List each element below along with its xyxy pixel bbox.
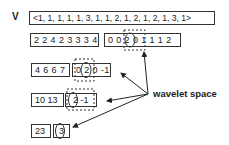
highlight-ellipse-4 xyxy=(56,124,65,139)
arrow-to-level3 xyxy=(107,94,148,101)
arrow-to-level1 xyxy=(144,52,148,94)
highlight-ellipse-3 xyxy=(69,93,78,108)
arrow-to-level2 xyxy=(121,73,148,94)
annotation-overlay xyxy=(0,0,229,145)
highlight-ellipse-1 xyxy=(125,33,135,47)
highlight-ellipse-2 xyxy=(81,63,91,78)
